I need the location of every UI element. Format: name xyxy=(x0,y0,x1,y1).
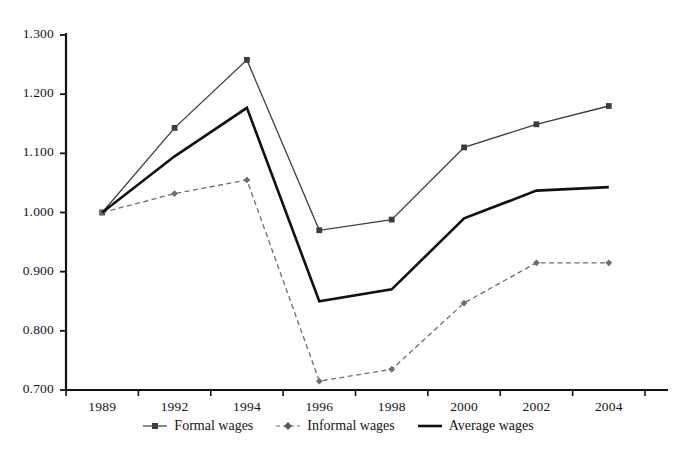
legend-label-average-wages: Average wages xyxy=(449,418,534,434)
y-tick-label: 1.200 xyxy=(0,85,54,101)
data-point-marker xyxy=(606,103,612,109)
data-point-marker xyxy=(461,145,467,151)
legend-item-formal-wages[interactable]: Formal wages xyxy=(142,418,253,434)
y-tick-label: 0.800 xyxy=(0,322,54,338)
diamond-dashed-marker-icon xyxy=(275,420,301,432)
x-tick-label: 2004 xyxy=(579,399,639,415)
y-tick-label: 1.300 xyxy=(0,26,54,42)
chart-legend: Formal wages Informal wages Average wage… xyxy=(0,418,676,434)
legend-item-average-wages[interactable]: Average wages xyxy=(417,418,534,434)
legend-label-formal-wages: Formal wages xyxy=(174,418,253,434)
legend-item-informal-wages[interactable]: Informal wages xyxy=(275,418,394,434)
series-layer xyxy=(99,57,612,385)
square-line-marker-icon xyxy=(142,420,168,432)
legend-label-informal-wages: Informal wages xyxy=(307,418,394,434)
chart-plot-area xyxy=(0,0,676,453)
data-point-marker xyxy=(533,259,540,266)
data-point-marker xyxy=(389,217,395,223)
data-point-marker xyxy=(171,190,178,197)
x-tick-label: 2000 xyxy=(434,399,494,415)
data-point-marker xyxy=(172,125,178,131)
y-tick-label: 0.900 xyxy=(0,263,54,279)
y-tick-label: 0.700 xyxy=(0,381,54,397)
series-line-average-wages xyxy=(102,108,609,301)
x-tick-label: 1998 xyxy=(362,399,422,415)
x-tick-label: 2002 xyxy=(506,399,566,415)
data-point-marker xyxy=(605,259,612,266)
series-line-formal-wages xyxy=(102,60,609,230)
data-point-marker xyxy=(316,227,322,233)
data-point-marker xyxy=(244,57,250,63)
data-point-marker xyxy=(316,378,323,385)
line-chart: 1.3001.2001.1001.0000.9000.8000.700 1989… xyxy=(0,0,676,453)
series-line-informal-wages xyxy=(102,180,609,381)
x-tick-label: 1996 xyxy=(289,399,349,415)
x-tick-label: 1994 xyxy=(217,399,277,415)
thick-line-marker-icon xyxy=(417,420,443,432)
data-point-marker xyxy=(388,366,395,373)
data-point-marker xyxy=(534,121,540,127)
x-tick-label: 1989 xyxy=(72,399,132,415)
y-tick-label: 1.000 xyxy=(0,204,54,220)
data-point-marker xyxy=(244,177,251,184)
y-tick-label: 1.100 xyxy=(0,144,54,160)
x-tick-label: 1992 xyxy=(145,399,205,415)
